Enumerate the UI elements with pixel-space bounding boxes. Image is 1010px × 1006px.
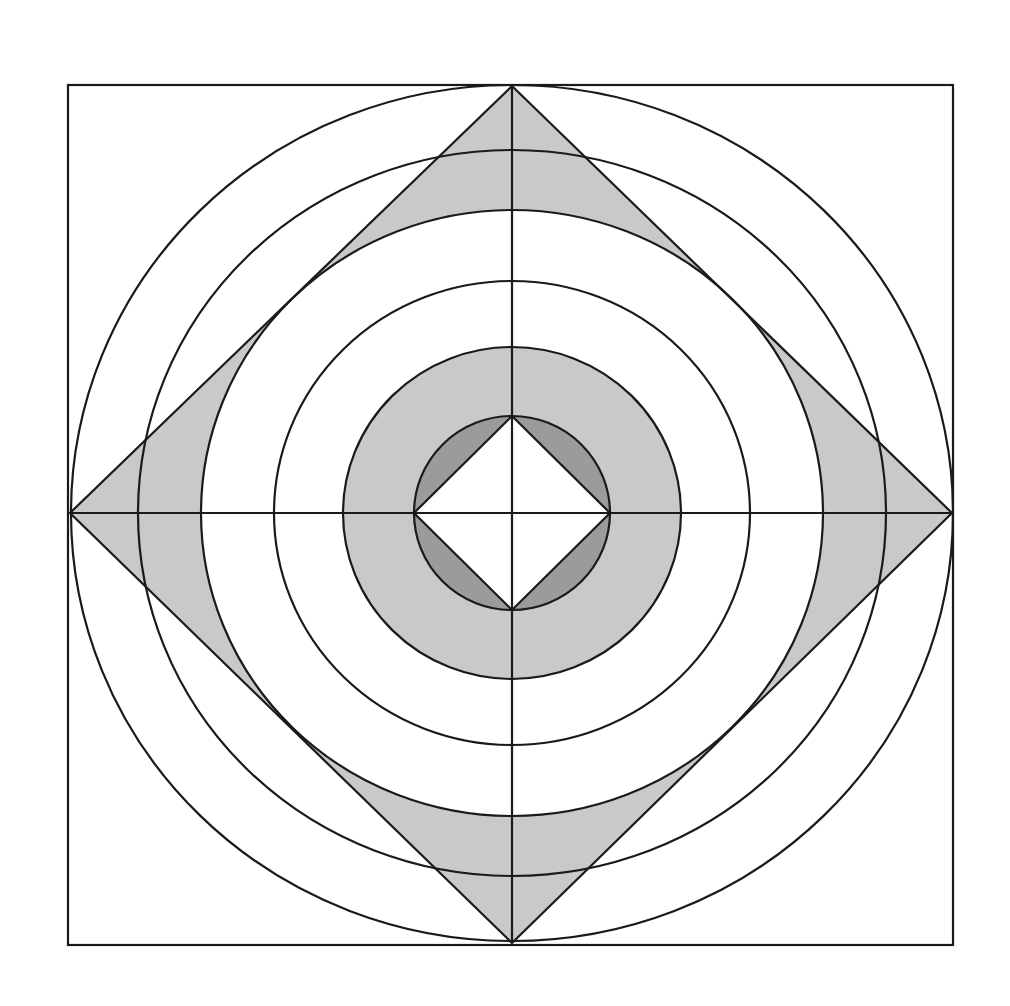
geometric-diagram [0,0,1010,1006]
